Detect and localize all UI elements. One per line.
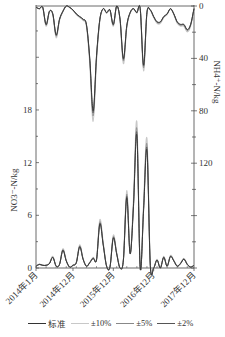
nh4-line <box>36 6 194 122</box>
right-tick-label: 80 <box>199 106 209 116</box>
legend-label-10pct: ±10% <box>91 318 111 328</box>
right-tick-label: 120 <box>199 158 213 168</box>
legend-line-2pct <box>157 323 175 324</box>
x-tick-label: 2014年12月 <box>37 270 77 310</box>
legend-item-standard: 标准 <box>28 317 66 329</box>
nh4-series-lines <box>36 6 194 122</box>
right-tick-label: 40 <box>199 53 209 63</box>
no3-line <box>36 121 194 276</box>
chart-canvas: 061218 04080120 2014年1月2014年12月2015年12月2… <box>0 0 225 337</box>
legend-label-2pct: ±2% <box>177 318 193 328</box>
legend-item-5pct: ±5% <box>116 318 152 328</box>
left-tick-label: 12 <box>23 158 32 168</box>
no3-line <box>36 128 194 276</box>
legend-line-standard <box>28 323 46 324</box>
x-tick-label: 2015年12月 <box>77 270 117 310</box>
legend-label-5pct: ±5% <box>136 318 152 328</box>
no3-series-lines <box>36 121 194 276</box>
left-axis-title: NO3⁻-N/kg <box>9 168 19 212</box>
x-tick-label: 2017年12月 <box>158 270 198 310</box>
no3-line <box>36 134 194 275</box>
no3-line <box>36 132 194 276</box>
left-tick-label: 18 <box>23 105 33 115</box>
x-axis-ticks: 2014年1月2014年12月2015年12月2016年12月2017年12月 <box>3 266 197 309</box>
legend-line-10pct <box>71 323 89 324</box>
legend-item-10pct: ±10% <box>71 318 111 328</box>
legend-label-standard: 标准 <box>48 317 66 329</box>
legend-line-5pct <box>116 323 134 324</box>
right-tick-label: 0 <box>199 1 204 11</box>
right-axis-title: NH4⁺-N/kg <box>212 60 222 104</box>
x-tick-label: 2014年1月 <box>3 270 39 306</box>
legend-item-2pct: ±2% <box>157 318 193 328</box>
plot-frame <box>36 5 194 268</box>
left-axis-ticks: 061218 <box>23 31 39 273</box>
left-tick-label: 6 <box>28 210 33 220</box>
legend: 标准 ±10% ±5% ±2% <box>28 317 193 329</box>
